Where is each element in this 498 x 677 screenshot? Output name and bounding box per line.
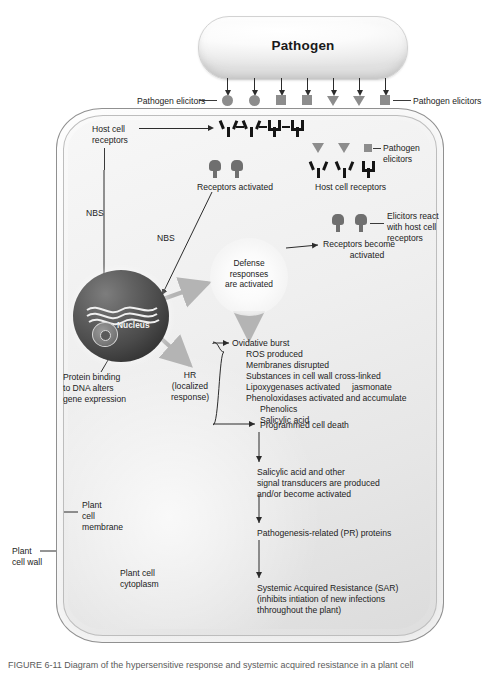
receptor-stem — [250, 127, 253, 137]
plant-cell-membrane-label-line2: cell — [82, 511, 95, 521]
pathogen-release-arrow-7 — [385, 78, 386, 91]
receptor-stem — [367, 168, 370, 178]
receptor-stem — [296, 127, 299, 137]
host-cell-receptors-left-label-line2: receptors — [92, 135, 128, 145]
receptor-stem — [336, 223, 340, 232]
pathogen-release-arrow-3 — [281, 78, 282, 91]
receptor-link-2 — [259, 126, 267, 128]
defense-responses-text: Defense responses are activated — [210, 258, 288, 290]
protein-binding-line3: gene expression — [63, 394, 126, 404]
host-receptor-label-leader — [104, 148, 105, 170]
receptor-stem — [343, 168, 346, 178]
host-receptor-right-1 — [312, 161, 325, 178]
inner-elicitor-triangle-2 — [338, 143, 350, 153]
pathogen-release-arrow-4 — [307, 78, 308, 91]
host-cell-receptors-pointer — [139, 128, 209, 129]
response-item-0: Ovidative burst — [232, 338, 289, 348]
elicitors-react-label-line1: Elicitors react — [387, 211, 439, 221]
inner-elicitors-label-line2: elicitors — [383, 154, 412, 164]
receptor-link-1 — [236, 126, 244, 128]
nucleus: Nucleus — [73, 270, 169, 362]
inner-elicitor-square — [364, 144, 372, 152]
plant-cell-membrane-label-line1: Plant — [82, 500, 102, 510]
defense-line3: are activated — [225, 279, 273, 289]
plant-cell-membrane-label-line3: membrane — [82, 522, 123, 532]
host-cell-receptors-right-label: Host cell receptors — [315, 182, 386, 192]
elicitor-triangle-2 — [353, 96, 365, 106]
pathogen-elicitors-left-leader — [199, 100, 217, 101]
response-item-2: Membranes disrupted — [246, 360, 329, 370]
cascade-step3-line3: thhroughout the plant) — [257, 605, 341, 615]
response-item-3: Substances in cell wall cross-linked — [246, 371, 381, 381]
pathogen-capsule: Pathogen — [198, 16, 408, 80]
response-item-5: Phenoloxidases activated and accumulate — [246, 393, 407, 403]
response-item-6: Phenolics — [260, 404, 297, 414]
elicitor-circle-2 — [249, 95, 260, 106]
plant-cell-wall-label-line1: Plant — [12, 546, 32, 556]
nucleus-label: Nucleus — [117, 320, 150, 330]
pathogen-label: Pathogen — [199, 38, 407, 53]
host-receptor-4 — [291, 120, 304, 137]
cascade-step2: Pathogenesis-related (PR) proteins — [257, 528, 391, 538]
nucleolus-core — [100, 330, 111, 341]
pathogen-elicitors-right-label: Pathogen elicitors — [413, 96, 481, 106]
plant-cell-wall-label-line2: cell wall — [12, 557, 42, 567]
elicitor-square-3 — [380, 95, 390, 105]
receptor-stem — [213, 169, 217, 178]
nucleolus — [92, 322, 118, 347]
inner-elicitors-label-line1: Pathogen — [383, 143, 420, 153]
hr-label-line3: response) — [168, 392, 212, 402]
host-receptor-3 — [268, 120, 281, 137]
elicitor-triangle-1 — [327, 96, 339, 106]
receptor-stem — [235, 169, 239, 178]
activated-receptor-right-1 — [332, 214, 344, 232]
receptors-become-activated-line2: activated — [323, 250, 411, 260]
elicitor-square-2 — [302, 95, 312, 105]
elicitor-square-1 — [276, 95, 286, 105]
cascade-step1-line3: and/or become activated — [257, 489, 351, 499]
pathogen-release-arrow-6 — [359, 78, 360, 91]
figure-canvas: Pathogen Pathogen elicitors Pathogen eli… — [0, 0, 498, 677]
protein-binding-line2: to DNA alters — [63, 383, 114, 393]
inner-elicitors-leader — [373, 148, 381, 149]
host-receptor-right-2 — [338, 161, 351, 178]
inner-elicitor-triangle-1 — [312, 143, 324, 153]
pathogen-release-arrow-2 — [254, 78, 255, 91]
cascade-step1-line2: signal transducers are produced — [257, 478, 380, 488]
host-cell-receptors-left-label-line1: Host cell — [92, 124, 125, 134]
plant-cell-cytoplasm-label-line2: cytoplasm — [120, 579, 159, 589]
receptor-stem — [317, 168, 320, 178]
defense-responses-bubble: Defense responses are activated — [210, 238, 288, 316]
pathogen-elicitors-right-leader — [393, 100, 411, 101]
hr-label-line2: (localized — [168, 381, 212, 391]
protein-binding-line1: Protein binding — [63, 372, 120, 382]
figure-caption-text: FIGURE 6-11 Diagram of the hypersensitiv… — [8, 660, 414, 670]
receptor-link-3 — [282, 126, 290, 128]
elicitor-circle-1 — [222, 95, 233, 106]
plant-cell-cytoplasm-label-line1: Plant cell — [120, 568, 155, 578]
cascade-step3-line2: (inhibits intiation of new infections — [257, 594, 385, 604]
elicitors-react-label-line2: with host cell — [387, 222, 436, 232]
receptor-stem — [359, 223, 363, 232]
dna-strands — [73, 270, 169, 362]
programmed-cell-death-label: Programmed cell death — [260, 420, 349, 430]
nbs-right-label: NBS — [157, 233, 175, 243]
pathogen-release-arrow-5 — [333, 78, 334, 91]
defense-line2: responses — [230, 269, 269, 279]
figure-caption: FIGURE 6-11 Diagram of the hypersensitiv… — [8, 660, 488, 670]
host-receptor-1 — [222, 120, 235, 137]
activated-receptor-right-2 — [355, 214, 367, 232]
pathogen-elicitors-left-label: Pathogen elicitors — [137, 96, 205, 106]
cascade-step1-line1: Salicylic acid and other — [257, 467, 345, 477]
pathogen-release-arrow-1 — [227, 78, 228, 91]
receptors-activated-label: Receptors activated — [197, 182, 273, 192]
receptors-become-activated-line1: Receptors become — [323, 239, 395, 249]
hr-label-line1: HR — [168, 370, 212, 380]
elicitors-react-leader — [370, 223, 384, 224]
nbs-left-label: NBS — [86, 208, 104, 218]
response-item-1: ROS produced — [246, 349, 303, 359]
response-item-4: Lipoxygenases activated jasmonate — [246, 382, 392, 392]
cascade-step3-line1: Systemic Acquired Resistance (SAR) — [257, 583, 398, 593]
defense-line1: Defense — [233, 258, 264, 268]
activated-receptor-left-2 — [231, 160, 243, 178]
